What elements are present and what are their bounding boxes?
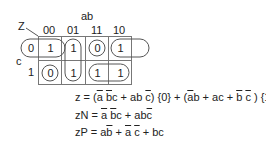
cell-1-11: 1 [86,61,109,85]
cell-0-10: 1 [109,36,132,60]
cell-0-01: 1 [62,36,85,60]
col-label-01: 01 [67,25,79,36]
equation-text: + bc [140,126,164,138]
cell-1-01: 1 [62,61,85,85]
equation-text: ) {0} + ( [151,91,187,103]
equation-zN-lhs: zN = [75,109,101,121]
row-label-1: 1 [28,67,34,78]
col-var-label: ab [81,11,93,22]
equation-z: z = (a bc + ab c) {0} + (ab + ac + b c )… [75,91,266,103]
equation-zP-rhs: ab + a c + bc [100,126,164,138]
equation-text: ) {1} [251,91,266,103]
cell-0-11: 0 [86,36,109,60]
col-label-00: 00 [43,25,55,36]
equation-zN-rhs: a bc + abc [101,109,152,121]
equation-text: + [112,126,125,138]
row-label-0: 0 [28,43,34,54]
equation-text: b + ac + [193,91,236,103]
equation-text: c + ab [116,109,146,121]
col-label-11: 11 [91,25,102,36]
equation-z-rhs: (a bc + ab c) {0} + (ab + ac + b c ) {1} [93,91,266,103]
cell-1-10: 1 [109,61,132,85]
output-label: Z [18,21,25,32]
equation-zN: zN = a bc + abc [75,109,152,121]
equation-text: c + ab [112,91,145,103]
z-diagonal-line [26,28,38,36]
equation-zP: zP = ab + a c + bc [75,126,164,138]
col-label-10: 10 [113,25,125,36]
row-var-label: c [16,56,22,67]
cell-1-00: 0 [39,61,62,85]
equation-zP-lhs: zP = [75,126,100,138]
negated-variable: c [147,109,153,121]
cell-0-00: 1 [39,36,62,60]
equation-z-lhs: z = [75,91,93,103]
